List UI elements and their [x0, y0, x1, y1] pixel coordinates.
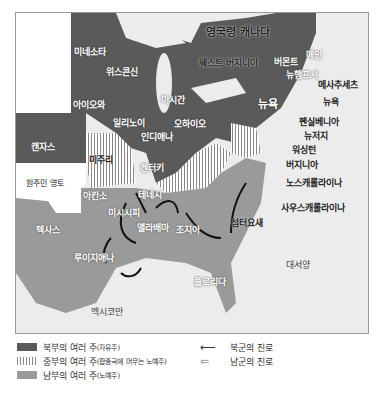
label-missouri: 미주리: [89, 153, 113, 166]
label-florida: 플로리다: [194, 275, 226, 288]
legend-mid: 중부의 여러 주: [43, 355, 97, 368]
map-shapes: [16, 13, 368, 333]
label-illinois: 일리노이: [113, 116, 145, 129]
swatch-mid: [17, 357, 37, 365]
label-kentucky: 켄터키: [140, 161, 164, 174]
legend-north-sub: (자유주): [97, 342, 120, 352]
legend-north: 북부의 여러 주: [43, 341, 97, 354]
civil-war-map: 영국령 캐나다 미네소타 위스콘신 미시간 아이오와 일리노이 인디애나 오하이…: [15, 12, 369, 334]
label-ohio: 오하이오: [174, 117, 206, 130]
label-washington: 워싱턴: [292, 143, 316, 156]
label-pennsylvania: 펜실베니아: [299, 115, 339, 128]
label-maine: 메인: [306, 48, 322, 61]
label-canada: 영국령 캐나다: [206, 23, 270, 39]
legend-mid-sub: (합중국에 머무는 노예주): [97, 356, 167, 366]
legend-south-sub: (노예주): [97, 370, 120, 380]
label-vermont: 버몬트: [274, 55, 298, 68]
label-mississippi: 미시시피: [108, 206, 140, 219]
swatch-north: [17, 343, 37, 351]
legend-south: 남부의 여러 주: [43, 369, 97, 382]
legend-confed: 남군의 진로: [230, 355, 273, 368]
label-newyork-city: 뉴욕: [323, 95, 339, 108]
swatch-south: [17, 371, 37, 379]
label-virginia: 버지니아: [286, 158, 318, 171]
label-atlantic: 대서양: [286, 258, 310, 271]
label-alabama: 앨라배마: [137, 221, 169, 234]
legend-states: 북부의 여러 주(자유주) 중부의 여러 주(합중국에 머무는 노예주) 남부의…: [17, 340, 167, 382]
label-wisconsin: 위스콘신: [106, 65, 138, 78]
label-newyork: 뉴욕: [258, 95, 278, 111]
label-kansas: 캔자스: [31, 140, 55, 153]
label-westvirginia: 웨스트 버지니아: [199, 56, 258, 69]
union-arrow-icon: ⟵: [200, 341, 224, 354]
label-gulf: 멕시코만: [91, 305, 123, 318]
label-georgia: 조지아: [176, 223, 200, 236]
label-sumter: 섬터요새: [231, 216, 263, 229]
label-newjersey: 뉴저지: [304, 129, 328, 142]
legend-union: 북군의 진로: [230, 341, 273, 354]
label-newhampshire: 뉴햄프셔: [286, 68, 318, 81]
label-native: 원주민 영토: [26, 177, 64, 188]
label-southcarolina: 사우스캐롤라이나: [281, 201, 345, 214]
label-iowa: 아이오와: [73, 98, 105, 111]
label-northcarolina: 노스캐롤라이나: [286, 176, 342, 189]
label-tennessee: 테네시: [138, 188, 162, 201]
label-arkansas: 아칸소: [83, 189, 107, 202]
legend-routes: ⟵북군의 진로 ⇐남군의 진로: [200, 340, 273, 368]
confed-arrow-icon: ⇐: [200, 355, 224, 368]
label-texas: 텍사스: [36, 223, 60, 236]
label-michigan: 미시간: [161, 93, 185, 106]
label-massachusetts: 메사추세츠: [318, 78, 358, 91]
label-indiana: 인디애나: [141, 130, 173, 143]
label-minnesota: 미네소타: [74, 45, 106, 58]
label-louisiana: 루이지애나: [74, 251, 114, 264]
